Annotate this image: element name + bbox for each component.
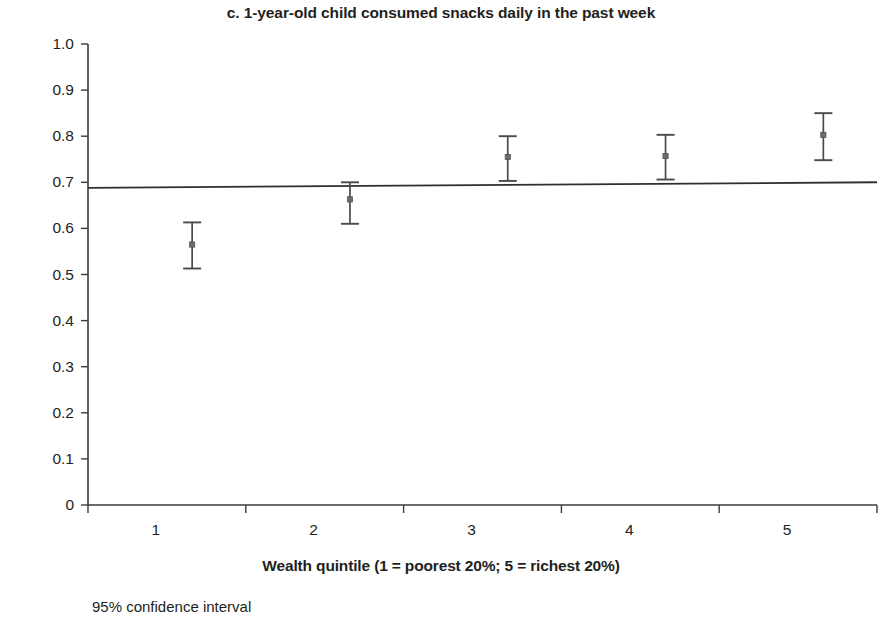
error-bar-point — [341, 182, 359, 223]
x-axis-tick-label: 4 — [625, 521, 634, 538]
data-point-marker — [505, 154, 510, 159]
x-axis-tick-label: 5 — [783, 521, 792, 538]
y-axis-tick-label: 0.1 — [52, 450, 74, 467]
y-axis-tick-marks — [81, 44, 88, 505]
x-axis-tick-label: 3 — [467, 521, 476, 538]
y-axis-tick-label: 0.8 — [52, 127, 74, 144]
y-axis-tick-label: 0.2 — [52, 404, 74, 421]
data-point-marker — [190, 242, 195, 247]
y-axis-tick-label: 0.6 — [52, 219, 74, 236]
data-point-marker — [347, 197, 352, 202]
data-point-marker — [663, 153, 668, 158]
y-axis-tick-label: 0 — [65, 496, 74, 513]
error-bar-point — [657, 135, 675, 180]
fitted-reference-line — [88, 182, 877, 188]
data-point-marker — [821, 132, 826, 137]
error-bar-point — [499, 136, 517, 181]
y-axis-tick-label: 0.7 — [52, 173, 74, 190]
x-axis-title: Wealth quintile (1 = poorest 20%; 5 = ri… — [0, 557, 882, 575]
y-axis-tick-label: 0.5 — [52, 266, 74, 283]
error-bar-point — [183, 222, 201, 268]
y-axis-tick-label: 0.3 — [52, 358, 74, 375]
error-bar-series — [183, 113, 832, 268]
x-axis-tick-labels: 12345 — [152, 521, 792, 538]
y-axis-tick-labels: 1.00.90.80.70.60.50.40.30.20.10 — [52, 35, 74, 513]
chart-container: c. 1-year-old child consumed snacks dail… — [0, 0, 882, 632]
x-axis-tick-label: 2 — [309, 521, 318, 538]
plot-area: 1.00.90.80.70.60.50.40.30.20.10 12345 — [0, 0, 882, 632]
chart-footnote: 95% confidence interval — [92, 598, 251, 615]
y-axis-tick-label: 1.0 — [52, 35, 74, 52]
y-axis-tick-label: 0.4 — [52, 312, 74, 329]
x-axis-tick-marks — [88, 505, 877, 513]
x-axis-tick-label: 1 — [152, 521, 161, 538]
error-bar-point — [814, 113, 832, 160]
y-axis-tick-label: 0.9 — [52, 81, 74, 98]
